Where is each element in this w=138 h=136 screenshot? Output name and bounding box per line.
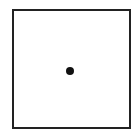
center-dot bbox=[66, 67, 74, 75]
